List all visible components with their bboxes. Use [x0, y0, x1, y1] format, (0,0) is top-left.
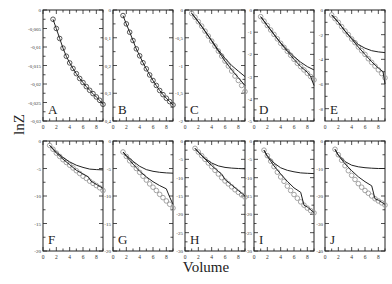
svg-text:0: 0: [39, 8, 42, 13]
svg-text:-5: -5: [248, 157, 253, 162]
svg-text:-4: -4: [319, 57, 324, 62]
svg-text:0,3: 0,3: [105, 91, 112, 97]
svg-text:0: 0: [253, 124, 256, 130]
svg-text:-40: -40: [316, 249, 323, 254]
svg-text:-5: -5: [248, 119, 253, 124]
svg-text:-0,005: -0,005: [28, 27, 41, 33]
panel-label: D: [259, 102, 268, 117]
svg-text:6: 6: [82, 124, 85, 130]
svg-text:-1: -1: [179, 64, 184, 69]
panel-B: 0246800,10,20,30,4B: [105, 8, 176, 130]
svg-text:0: 0: [321, 8, 324, 13]
svg-text:0: 0: [109, 139, 112, 144]
x-axis-label: Volume: [0, 259, 392, 276]
svg-text:4: 4: [210, 124, 213, 130]
svg-text:4: 4: [68, 124, 71, 130]
svg-text:-15: -15: [176, 194, 183, 199]
svg-text:-10: -10: [104, 194, 111, 199]
svg-text:-10: -10: [316, 167, 323, 172]
svg-text:8: 8: [377, 124, 380, 130]
svg-text:-15: -15: [104, 222, 111, 227]
svg-text:-5: -5: [107, 167, 112, 172]
panel-label: H: [190, 232, 199, 247]
svg-text:-30: -30: [176, 249, 183, 254]
svg-text:-10: -10: [176, 176, 183, 181]
svg-text:-5: -5: [37, 167, 42, 172]
svg-text:-20: -20: [176, 212, 183, 217]
svg-text:2: 2: [125, 124, 128, 130]
svg-text:-30: -30: [316, 222, 323, 227]
panel-label: C: [190, 102, 199, 117]
svg-text:-2: -2: [179, 119, 184, 124]
svg-text:4: 4: [350, 124, 353, 130]
panel-I: 024680-5-10-15-20-25-30I: [245, 139, 316, 260]
svg-text:-10: -10: [245, 176, 252, 181]
panel-label: B: [118, 102, 127, 117]
svg-text:8: 8: [237, 124, 240, 130]
svg-text:-2: -2: [319, 33, 324, 38]
svg-text:0: 0: [324, 124, 327, 130]
svg-text:-0,01: -0,01: [31, 45, 42, 51]
svg-text:-0,025: -0,025: [28, 101, 41, 107]
svg-text:8: 8: [95, 124, 98, 130]
svg-text:6: 6: [293, 124, 296, 130]
svg-text:-20: -20: [316, 194, 323, 199]
svg-text:6: 6: [364, 124, 367, 130]
panel-J: 024680-10-20-30-40J: [316, 139, 387, 260]
panel-H: 024680-5-10-15-20-25-30H: [176, 139, 247, 260]
svg-text:0,2: 0,2: [105, 64, 112, 70]
svg-text:-6: -6: [319, 82, 324, 87]
svg-text:-25: -25: [176, 231, 183, 236]
svg-text:-20: -20: [104, 249, 111, 254]
svg-text:0: 0: [112, 124, 115, 130]
svg-text:-15: -15: [34, 222, 41, 227]
panel-label: F: [48, 232, 55, 247]
y-axis-label: lnZ: [11, 110, 28, 140]
svg-text:0: 0: [109, 8, 112, 13]
svg-text:-4: -4: [248, 97, 253, 102]
svg-text:2: 2: [55, 124, 58, 130]
panel-label: J: [330, 232, 335, 247]
svg-text:4: 4: [138, 124, 141, 130]
svg-text:2: 2: [197, 124, 200, 130]
svg-text:6: 6: [224, 124, 227, 130]
panel-label: I: [259, 232, 263, 247]
chart-grid: 024680-0,005-0,01-0,015-0,02-0,025-0,03A…: [0, 0, 392, 284]
svg-text:0: 0: [181, 139, 184, 144]
svg-text:-5: -5: [179, 157, 184, 162]
svg-text:0: 0: [321, 139, 324, 144]
svg-text:8: 8: [165, 124, 168, 130]
panel-G: 024680-5-10-15-20G: [104, 139, 175, 260]
panel-label: E: [330, 102, 338, 117]
svg-text:4: 4: [279, 124, 282, 130]
svg-text:-20: -20: [245, 212, 252, 217]
panel-D: 024680-1-2-3-4-5D: [248, 8, 316, 130]
panel-A: 024680-0,005-0,01-0,015-0,02-0,025-0,03A: [28, 8, 105, 130]
svg-text:-20: -20: [34, 249, 41, 254]
panel-F: 024680-5-10-15-20F: [34, 139, 105, 260]
svg-text:-10: -10: [34, 194, 41, 199]
panel-E: 024680-2-4-6-8E: [319, 8, 387, 130]
svg-text:0,1: 0,1: [105, 36, 112, 42]
svg-text:-1,5: -1,5: [175, 91, 183, 97]
svg-text:0: 0: [42, 124, 45, 130]
svg-text:-2: -2: [248, 52, 253, 57]
svg-text:0: 0: [181, 8, 184, 13]
svg-text:6: 6: [152, 124, 155, 130]
svg-text:-8: -8: [319, 107, 324, 112]
svg-text:0: 0: [250, 139, 253, 144]
svg-text:-30: -30: [245, 249, 252, 254]
svg-text:-15: -15: [245, 194, 252, 199]
svg-text:2: 2: [266, 124, 269, 130]
svg-text:-0,03: -0,03: [31, 119, 42, 125]
panel-C: 024680-0,5-1-1,5-2C: [175, 8, 247, 130]
panel-label: A: [48, 102, 58, 117]
svg-text:0: 0: [39, 139, 42, 144]
svg-text:-1: -1: [248, 30, 253, 35]
panel-label: G: [118, 232, 127, 247]
svg-text:0: 0: [250, 8, 253, 13]
svg-text:0,4: 0,4: [105, 119, 112, 125]
svg-text:-0,015: -0,015: [28, 64, 41, 70]
svg-text:-0,5: -0,5: [175, 36, 183, 42]
svg-text:8: 8: [306, 124, 309, 130]
